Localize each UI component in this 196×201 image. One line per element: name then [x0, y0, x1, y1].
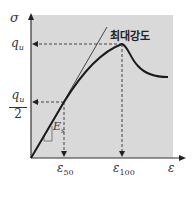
half-qu-label: qu 2 [9, 89, 27, 120]
e50-label: ε50 [57, 161, 74, 177]
modulus-main: E [53, 120, 61, 133]
e100-sub: 100 [119, 168, 134, 177]
stress-strain-diagram [0, 0, 196, 201]
qu-main: q [11, 36, 19, 50]
x-axis-arrow-icon [179, 155, 186, 161]
qu-label: qu [11, 36, 24, 52]
half-qu-den: 2 [9, 108, 27, 120]
modulus-sub: s [61, 127, 65, 135]
e100-label: ε100 [113, 161, 135, 177]
half-qu-num-sub: u [19, 95, 24, 104]
qu-sub: u [19, 43, 24, 52]
modulus-label: Es [53, 120, 65, 135]
e50-sub: 50 [63, 168, 73, 177]
peak-strength-label: 최대강도 [110, 27, 150, 43]
x-axis-label: ε [168, 161, 174, 175]
y-axis-label: σ [10, 10, 19, 25]
